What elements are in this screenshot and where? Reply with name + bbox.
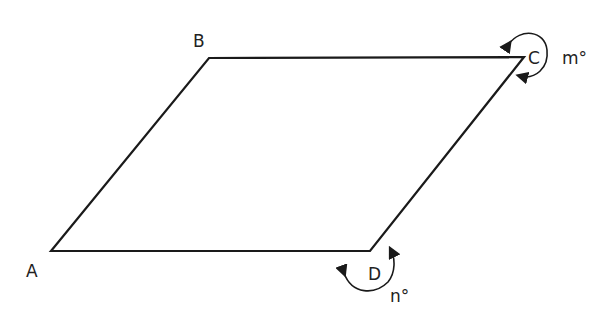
- vertex-label-c: C: [528, 48, 540, 68]
- vertex-label-a: A: [26, 261, 38, 281]
- angle-label-n: n°: [390, 286, 409, 306]
- angle-label-m: m°: [562, 48, 587, 68]
- parallelogram-diagram: A B C D m° n°: [0, 0, 612, 318]
- vertex-label-d: D: [368, 264, 381, 284]
- parallelogram-abcd: [51, 57, 524, 251]
- vertex-label-b: B: [193, 31, 205, 51]
